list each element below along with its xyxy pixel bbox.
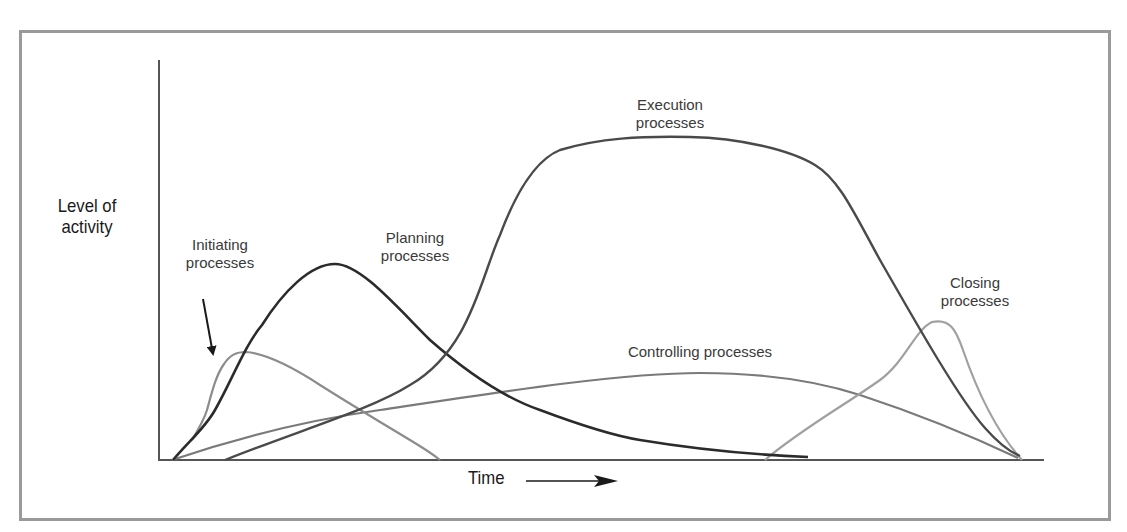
controlling-processes-label: Controlling processes [605,343,795,361]
initiating-pointer-arrow-icon [203,299,213,354]
initiating-processes-label: Initiating processes [170,236,270,272]
y-axis-label-line1: Level of [39,195,136,216]
planning-label-line2: processes [365,247,465,265]
controlling-processes-curve [172,373,1018,460]
planning-label-line1: Planning [365,229,465,247]
closing-label-line1: Closing [925,274,1025,292]
x-axis-label: Time [468,467,505,489]
planning-processes-label: Planning processes [365,229,465,265]
closing-label-line2: processes [925,292,1025,310]
y-axis-label: Level of activity [39,195,136,237]
execution-label-line1: Execution [615,96,725,114]
execution-processes-label: Execution processes [615,96,725,132]
y-axis-label-line2: activity [39,216,136,237]
controlling-label-line1: Controlling processes [605,343,795,361]
closing-processes-curve [765,321,1022,460]
initiating-label-line1: Initiating [170,236,270,254]
execution-label-line2: processes [615,114,725,132]
initiating-label-line2: processes [170,254,270,272]
closing-processes-label: Closing processes [925,274,1025,310]
execution-processes-curve [225,137,1020,460]
